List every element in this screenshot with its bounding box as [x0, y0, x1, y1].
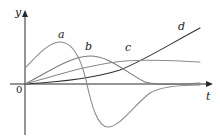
curve-d-label: d	[178, 21, 185, 32]
t-axis-arrow-icon	[206, 81, 213, 87]
curve-b-label: b	[85, 41, 92, 52]
y-axis-label: y	[15, 7, 21, 18]
curve-b	[25, 56, 200, 84]
curve-d	[25, 28, 200, 84]
y-axis-arrow-icon	[22, 10, 28, 17]
chart-canvas	[0, 0, 220, 136]
origin-label: 0	[16, 85, 22, 95]
curve-c-label: c	[125, 42, 131, 53]
t-axis-label: t	[206, 91, 210, 102]
curve-a-label: a	[58, 29, 65, 40]
